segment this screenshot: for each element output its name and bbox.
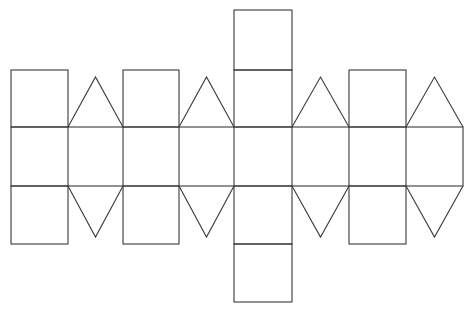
upper-square-1 <box>11 70 68 127</box>
polyhedron-net-diagram <box>0 0 471 313</box>
lower-triangle-3 <box>292 186 349 237</box>
net-svg <box>0 0 471 313</box>
lower-square-3 <box>349 186 406 244</box>
upper-triangle-1 <box>68 77 123 127</box>
upper-triangle-3 <box>292 77 349 127</box>
upper-triangle-4 <box>406 77 463 127</box>
upper-triangle-2 <box>179 77 234 127</box>
center-bottom-square <box>234 244 292 302</box>
triangle-faces <box>68 77 463 237</box>
upper-square-2 <box>123 70 179 127</box>
lower-square-1 <box>11 186 68 244</box>
square-faces <box>11 10 406 302</box>
center-upper-square <box>234 70 292 127</box>
upper-square-3 <box>349 70 406 127</box>
lower-triangle-4 <box>406 186 463 237</box>
center-top-square <box>234 10 292 70</box>
middle-band <box>11 127 463 186</box>
lower-square-2 <box>123 186 179 244</box>
lower-triangle-2 <box>179 186 234 237</box>
center-lower-square <box>234 186 292 244</box>
middle-band <box>11 127 463 186</box>
lower-triangle-1 <box>68 186 123 237</box>
